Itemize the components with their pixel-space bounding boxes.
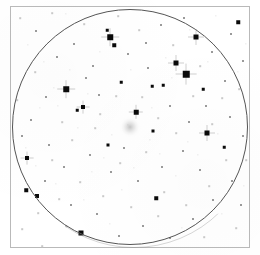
star-marker <box>243 185 244 186</box>
star-marker <box>203 236 205 238</box>
star-marker <box>230 33 232 35</box>
star-marker <box>235 227 237 229</box>
star-marker <box>221 213 222 214</box>
star-marker <box>19 17 21 19</box>
star-marker <box>65 13 66 14</box>
star-marker <box>237 71 238 72</box>
star-marker <box>215 15 216 16</box>
star-marker <box>21 228 23 230</box>
star-marker <box>245 43 246 44</box>
star-marker <box>37 212 39 214</box>
star-marker <box>51 12 53 14</box>
star-marker <box>245 159 247 161</box>
field-of-view-circle <box>12 9 248 245</box>
star-marker <box>183 17 185 19</box>
star-marker <box>24 188 28 192</box>
star-marker <box>35 30 37 32</box>
star-marker <box>242 60 244 62</box>
star-marker <box>240 204 242 206</box>
star-marker <box>41 245 43 247</box>
star-marker <box>27 44 28 45</box>
star-marker <box>236 20 240 24</box>
finder-chart <box>0 0 260 255</box>
